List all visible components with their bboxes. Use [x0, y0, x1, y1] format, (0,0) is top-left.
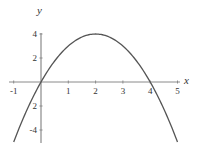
y-tick-label: 2: [33, 53, 38, 63]
x-tick-label: -1: [10, 86, 18, 96]
x-tick-label: 5: [175, 86, 180, 96]
x-tick-label: 1: [66, 86, 71, 96]
parabola-chart: -112345422-4 x y: [0, 0, 197, 150]
x-tick-label: 3: [121, 86, 126, 96]
x-axis-label: x: [183, 74, 189, 86]
y-axis-label: y: [36, 4, 42, 16]
x-tick-label: 2: [93, 86, 98, 96]
y-tick-label: -4: [30, 125, 38, 135]
y-tick-label: 4: [33, 29, 38, 39]
y-tick-label: 2: [33, 101, 38, 111]
x-tick-label: 4: [148, 86, 153, 96]
